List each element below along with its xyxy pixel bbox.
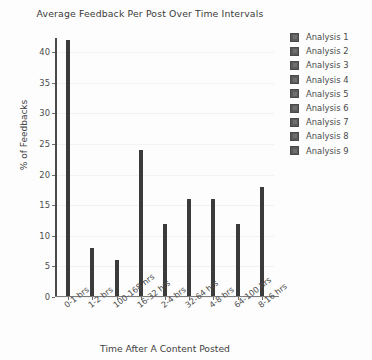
legend-item[interactable]: Analysis 5	[290, 87, 372, 101]
x-axis-title: Time After A Content Posted	[56, 343, 274, 354]
bar	[163, 224, 167, 297]
bar	[260, 187, 264, 297]
legend-label: Analysis 9	[306, 146, 349, 156]
plot-area	[56, 40, 274, 297]
legend-swatch-icon	[290, 104, 299, 113]
legend-item[interactable]: Analysis 6	[290, 101, 372, 115]
legend-item[interactable]: Analysis 9	[290, 144, 372, 158]
y-axis-title: % of Feedbacks	[19, 65, 29, 205]
bar	[187, 199, 191, 297]
legend-swatch-icon	[290, 132, 299, 141]
y-axis-spine	[55, 38, 57, 297]
legend: Analysis 1Analysis 2Analysis 3Analysis 4…	[290, 30, 372, 158]
legend-swatch-icon	[290, 118, 299, 127]
x-axis-spine	[55, 296, 279, 297]
y-tick-label: 5	[26, 261, 50, 271]
y-tick-label: 40	[26, 47, 50, 57]
legend-swatch-icon	[290, 47, 299, 56]
legend-label: Analysis 1	[306, 32, 349, 42]
legend-item[interactable]: Analysis 8	[290, 129, 372, 143]
y-tick-label: 15	[26, 200, 50, 210]
legend-item[interactable]: Analysis 1	[290, 30, 372, 44]
bar	[115, 260, 119, 297]
bar	[139, 150, 143, 297]
bar	[211, 199, 215, 297]
legend-swatch-icon	[290, 61, 299, 70]
legend-swatch-icon	[290, 89, 299, 98]
legend-label: Analysis 5	[306, 89, 349, 99]
legend-label: Analysis 4	[306, 75, 349, 85]
bar-group	[56, 40, 274, 297]
legend-label: Analysis 6	[306, 103, 349, 113]
chart-figure: Average Feedback Per Post Over Time Inte…	[0, 0, 372, 360]
legend-label: Analysis 3	[306, 60, 349, 70]
legend-item[interactable]: Analysis 3	[290, 58, 372, 72]
bar	[66, 40, 70, 297]
legend-swatch-icon	[290, 33, 299, 42]
bar	[90, 248, 94, 297]
legend-item[interactable]: Analysis 4	[290, 73, 372, 87]
gridline	[56, 297, 274, 298]
legend-label: Analysis 7	[306, 117, 349, 127]
legend-item[interactable]: Analysis 7	[290, 115, 372, 129]
y-tick-label: 35	[26, 78, 50, 88]
bar	[236, 224, 240, 297]
y-tick-mark	[52, 297, 55, 298]
legend-swatch-icon	[290, 75, 299, 84]
y-tick-label: 20	[26, 170, 50, 180]
legend-swatch-icon	[290, 146, 299, 155]
y-tick-label: 10	[26, 231, 50, 241]
legend-label: Analysis 2	[306, 46, 349, 56]
legend-item[interactable]: Analysis 2	[290, 44, 372, 58]
y-tick-label: 0	[26, 292, 50, 302]
chart-title: Average Feedback Per Post Over Time Inte…	[0, 8, 300, 19]
y-tick-label: 25	[26, 139, 50, 149]
y-tick-label: 30	[26, 108, 50, 118]
legend-label: Analysis 8	[306, 131, 349, 141]
